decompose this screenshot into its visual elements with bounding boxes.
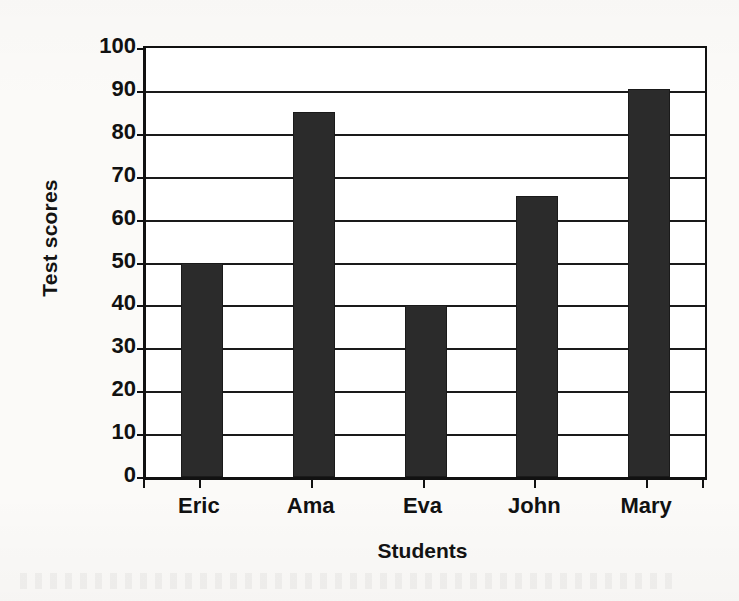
x-tick-label: Eva	[403, 493, 442, 519]
x-axis-title-label: Students	[378, 539, 468, 562]
y-axis-title: Test scores	[18, 0, 82, 475]
y-tick-mark	[137, 391, 146, 393]
x-tick-label: Eric	[178, 493, 220, 519]
gridline	[146, 263, 705, 265]
y-tick-label: 30	[78, 335, 136, 357]
y-tick-label: 80	[78, 121, 136, 143]
y-tick-label: 100	[78, 35, 136, 57]
y-tick-mark	[137, 91, 146, 93]
y-tick-label: 50	[78, 250, 136, 272]
bar	[516, 196, 558, 477]
y-tick-mark	[137, 48, 146, 50]
x-tick-label: Ama	[287, 493, 335, 519]
x-tick-mark	[646, 477, 648, 488]
bar	[181, 263, 223, 478]
x-tick-mark	[199, 477, 201, 488]
x-axis-tick-marks	[143, 477, 704, 489]
y-tick-mark	[137, 220, 146, 222]
x-axis-tick-labels: EricAmaEvaJohnMary	[143, 493, 702, 527]
x-tick-label: John	[508, 493, 561, 519]
scan-artifact-footer-text	[20, 573, 680, 589]
bar	[293, 112, 335, 477]
y-tick-mark	[137, 134, 146, 136]
x-tick-mark-origin	[143, 477, 145, 488]
y-tick-label: 90	[78, 78, 136, 100]
bar	[628, 89, 670, 477]
y-tick-label: 10	[78, 421, 136, 443]
x-tick-label: Mary	[620, 493, 671, 519]
y-tick-label: 40	[78, 292, 136, 314]
gridline	[146, 91, 705, 93]
y-tick-label: 0	[78, 464, 136, 486]
y-axis-tick-labels: 0102030405060708090100	[78, 46, 136, 475]
gridline	[146, 177, 705, 179]
y-tick-mark	[137, 305, 146, 307]
y-tick-label: 70	[78, 164, 136, 186]
plot-area	[143, 46, 707, 480]
gridline	[146, 220, 705, 222]
y-tick-mark	[137, 434, 146, 436]
x-axis-title: Students	[143, 539, 702, 563]
y-tick-label: 60	[78, 207, 136, 229]
y-tick-label: 20	[78, 378, 136, 400]
bar	[405, 305, 447, 477]
y-tick-mark	[137, 348, 146, 350]
gridline	[146, 134, 705, 136]
x-tick-mark	[534, 477, 536, 488]
y-tick-mark	[137, 263, 146, 265]
x-tick-mark-end	[702, 477, 704, 488]
x-tick-mark	[311, 477, 313, 488]
y-tick-mark	[137, 177, 146, 179]
x-tick-mark	[423, 477, 425, 488]
bar-chart-figure: Test scores 0102030405060708090100 EricA…	[0, 0, 739, 601]
y-axis-title-label: Test scores	[38, 179, 62, 296]
